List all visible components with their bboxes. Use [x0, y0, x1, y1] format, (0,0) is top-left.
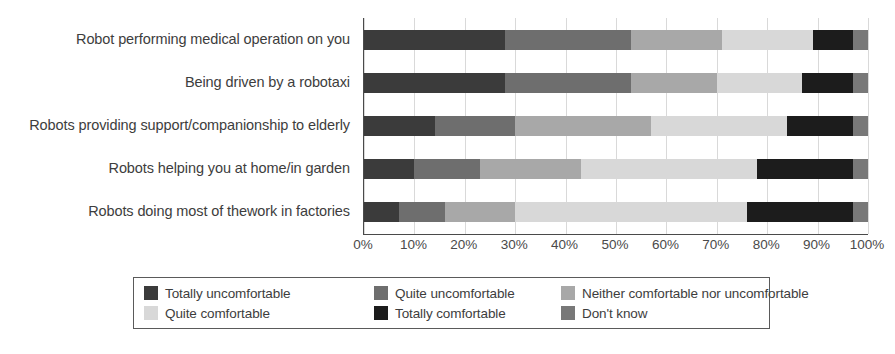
bar-segment	[414, 159, 480, 179]
x-tick-label: 60%	[652, 237, 679, 252]
bar-segment	[722, 30, 813, 50]
bar-row	[364, 202, 868, 222]
x-tick-label: 70%	[702, 237, 729, 252]
legend-label: Quite comfortable	[165, 306, 270, 321]
bar-row	[364, 30, 868, 50]
category-label: Robots helping you at home/in garden	[109, 161, 357, 177]
plot-area	[363, 18, 868, 235]
category-label: Being driven by a robotaxi	[185, 75, 357, 91]
bar-segment	[717, 73, 803, 93]
legend-swatch-icon	[144, 306, 158, 320]
chart-legend: Totally uncomfortableQuite uncomfortable…	[133, 277, 770, 329]
bar-segment	[802, 73, 852, 93]
bar-segment	[631, 73, 717, 93]
legend-swatch-icon	[561, 306, 575, 320]
legend-swatch-icon	[374, 306, 388, 320]
bar-segment	[853, 30, 868, 50]
bar-segment	[364, 159, 414, 179]
bar-segment	[445, 202, 516, 222]
category-axis: Robot performing medical operation on yo…	[0, 18, 357, 234]
legend-swatch-icon	[144, 286, 158, 300]
bar-segment	[853, 116, 868, 136]
x-tick-label: 40%	[551, 237, 578, 252]
bar-row	[364, 116, 868, 136]
bar-segment	[505, 73, 631, 93]
x-tick-label: 100%	[850, 237, 885, 252]
stacked-bar-chart: Robot performing medical operation on yo…	[0, 0, 895, 354]
bar-segment	[515, 202, 747, 222]
x-tick-label: 30%	[501, 237, 528, 252]
bar-segment	[480, 159, 581, 179]
legend-item[interactable]: Totally comfortable	[374, 303, 561, 323]
x-tick-label: 10%	[400, 237, 427, 252]
bar-segment	[581, 159, 757, 179]
bar-row	[364, 73, 868, 93]
bar-segment	[853, 159, 868, 179]
bar-row	[364, 159, 868, 179]
x-tick-label: 80%	[753, 237, 780, 252]
legend-swatch-icon	[374, 286, 388, 300]
category-label: Robots doing most of thework in factorie…	[88, 204, 357, 220]
bar-segment	[364, 30, 505, 50]
legend-label: Quite uncomfortable	[395, 286, 515, 301]
bar-segment	[813, 30, 853, 50]
bar-segment	[435, 116, 516, 136]
legend-item[interactable]: Quite uncomfortable	[374, 283, 561, 303]
bar-segment	[399, 202, 444, 222]
bar-segment	[364, 116, 435, 136]
legend-item[interactable]: Don't know	[561, 303, 761, 323]
bar-segment	[853, 73, 868, 93]
bar-segment	[853, 202, 868, 222]
legend-item[interactable]: Neither comfortable nor uncomfortable	[561, 283, 761, 303]
bar-segment	[651, 116, 787, 136]
legend-label: Neither comfortable nor uncomfortable	[582, 286, 809, 301]
bar-segment	[747, 202, 853, 222]
legend-label: Totally comfortable	[395, 306, 506, 321]
category-label: Robots providing support/companionship t…	[29, 118, 357, 134]
x-tick-label: 0%	[353, 237, 373, 252]
bar-segment	[787, 116, 853, 136]
bar-segment	[515, 116, 651, 136]
x-tick-label: 50%	[601, 237, 628, 252]
gridline	[868, 18, 869, 234]
bar-segment	[505, 30, 631, 50]
bar-segment	[364, 73, 505, 93]
bar-segment	[631, 30, 722, 50]
legend-label: Don't know	[582, 306, 647, 321]
legend-item[interactable]: Totally uncomfortable	[144, 283, 374, 303]
legend-swatch-icon	[561, 286, 575, 300]
x-tick-label: 90%	[803, 237, 830, 252]
legend-item[interactable]: Quite comfortable	[144, 303, 374, 323]
category-label: Robot performing medical operation on yo…	[76, 32, 357, 48]
x-tick-label: 20%	[450, 237, 477, 252]
legend-label: Totally uncomfortable	[165, 286, 290, 301]
bar-segment	[757, 159, 853, 179]
bar-segment	[364, 202, 399, 222]
bar-series-container	[364, 18, 868, 234]
x-axis-tick-labels: 0%10%20%30%40%50%60%70%80%90%100%	[363, 237, 867, 257]
